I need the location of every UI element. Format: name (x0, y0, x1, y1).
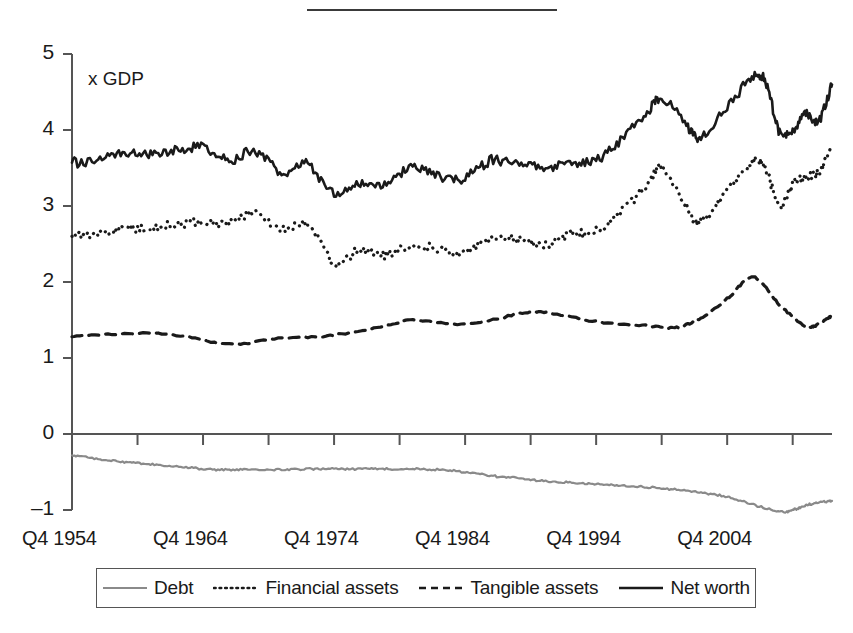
series-line-tangible-assets (72, 277, 832, 345)
y-axis-tick-label: 0 (14, 420, 54, 444)
legend-swatch-net-worth (618, 581, 664, 595)
x-axis-tick-label: Q4 1954 (22, 527, 97, 550)
x-axis-tick-label: Q4 1984 (415, 527, 490, 550)
series-line-financial-assets (72, 145, 832, 266)
series-line-debt (72, 455, 832, 512)
y-axis-tick-label: 5 (14, 40, 54, 64)
legend-swatch-debt (102, 581, 148, 595)
legend-swatch-tangible-assets (418, 581, 464, 595)
legend-swatch-financial-assets (213, 581, 259, 595)
chart-legend: Debt Financial assets Tangible assets Ne… (96, 568, 756, 608)
legend-item-financial-assets: Financial assets (213, 577, 398, 599)
y-axis-tick-label: 4 (14, 116, 54, 140)
chart-figure: x GDP Debt Financial assets Tangible ass… (0, 0, 853, 633)
x-axis-tick-label: Q4 2004 (677, 527, 752, 550)
legend-item-debt: Debt (102, 577, 193, 599)
series-line-net-worth (72, 72, 832, 197)
legend-label-financial-assets: Financial assets (265, 577, 398, 599)
y-axis-tick-label: 3 (14, 192, 54, 216)
y-axis-units-label: x GDP (88, 68, 144, 90)
x-axis-tick-label: Q4 1974 (284, 527, 359, 550)
y-axis-tick-label: –1 (14, 496, 54, 520)
legend-item-tangible-assets: Tangible assets (418, 577, 598, 599)
x-axis-tick-label: Q4 1964 (153, 527, 228, 550)
legend-label-tangible-assets: Tangible assets (470, 577, 598, 599)
legend-item-net-worth: Net worth (618, 577, 750, 599)
x-axis-tick-label: Q4 1994 (546, 527, 621, 550)
legend-label-net-worth: Net worth (670, 577, 750, 599)
legend-label-debt: Debt (154, 577, 193, 599)
y-axis-tick-label: 2 (14, 268, 54, 292)
y-axis-tick-label: 1 (14, 344, 54, 368)
